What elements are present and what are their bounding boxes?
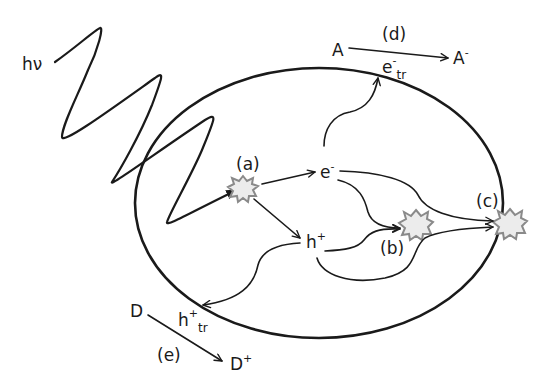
burst-a-icon — [228, 176, 258, 202]
step-e-label: (e) — [157, 345, 181, 365]
step-c-label: (c) — [476, 191, 499, 211]
photocatalysis-diagram: hν (a) (b) (c) (d) (e) e- h+ e-tr h+tr A… — [0, 0, 544, 385]
hole-label: h+ — [306, 230, 326, 252]
trapped-hole-label: h+tr — [178, 307, 208, 335]
step-d-label: (d) — [382, 24, 406, 44]
arrow-electron-to-b — [338, 180, 400, 228]
arrow-electron-to-trap — [324, 78, 378, 146]
burst-b-icon — [399, 210, 433, 240]
donor-label: D — [130, 301, 143, 321]
step-b-label: (b) — [380, 238, 404, 258]
arrow-hole-to-trap — [203, 243, 300, 305]
electron-label: e- — [320, 160, 334, 182]
photon-label: hν — [22, 54, 42, 74]
donor-oxidized-label: D+ — [230, 352, 252, 374]
acceptor-label: A — [332, 40, 344, 60]
particle-boundary — [135, 68, 503, 338]
arrow-acceptor-reduction — [349, 48, 448, 58]
step-a-label: (a) — [236, 154, 260, 174]
acceptor-reduced-label: A- — [453, 46, 469, 68]
arrow-a-to-hole — [254, 199, 300, 238]
burst-c-icon — [493, 209, 527, 239]
photon-wave — [55, 28, 237, 223]
arrow-a-to-electron — [262, 172, 315, 184]
